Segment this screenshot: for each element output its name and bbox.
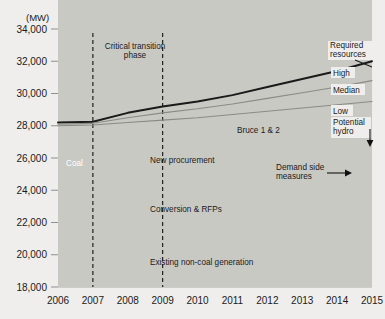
y-tick-label: 18,000 (16, 282, 47, 293)
ctp-line1: Critical transition (105, 42, 166, 51)
y-tick-label: 32,000 (16, 56, 47, 67)
label-low: Low (333, 107, 348, 116)
annotation-coal: Coal (66, 159, 83, 168)
annotation-existing-non-coal: Existing non-coal generation (150, 258, 254, 267)
x-tick-label: 2012 (256, 295, 279, 306)
x-tick-label: 2010 (186, 295, 209, 306)
y-tick-label: 26,000 (16, 153, 47, 164)
x-tick-label: 2008 (117, 295, 140, 306)
req-line1: Required (330, 41, 364, 50)
y-tick-label: 20,000 (16, 249, 47, 260)
x-tick-label: 2006 (47, 295, 70, 306)
annotation-high: High (331, 67, 355, 78)
annotation-median: Median (331, 84, 365, 95)
x-tick-label: 2007 (82, 295, 105, 306)
dsm-line1: Demand side (276, 163, 325, 172)
hydro-line2: hydro (333, 127, 354, 136)
x-tick-label: 2011 (222, 295, 244, 306)
y-tick-label: 24,000 (16, 185, 47, 196)
y-tick-label: 28,000 (16, 120, 47, 131)
y-axis-unit-label: (MW) (26, 12, 49, 23)
x-tick-label: 2015 (361, 295, 384, 306)
y-axis-tick-labels: 18,00020,00022,00024,00026,00028,00030,0… (16, 24, 47, 293)
y-tick-label: 30,000 (16, 88, 47, 99)
x-tick-label: 2009 (152, 295, 175, 306)
annotation-conversion-rfps: Conversion & RFPs (150, 205, 222, 214)
annotation-new-procurement: New procurement (150, 156, 215, 165)
dsm-line2: measures (276, 172, 312, 181)
y-tick-label: 22,000 (16, 217, 47, 228)
y-tick-label: 34,000 (16, 24, 47, 35)
annotation-low: Low (331, 105, 353, 116)
label-high: High (333, 69, 350, 78)
label-median: Median (333, 86, 360, 95)
x-tick-label: 2013 (291, 295, 314, 306)
hydro-line1: Potential (333, 118, 365, 127)
x-tick-label: 2014 (326, 295, 349, 306)
area-chart: 18,00020,00022,00024,00026,00028,00030,0… (0, 0, 385, 319)
ctp-line2: phase (124, 51, 147, 60)
annotation-bruce-1-2: Bruce 1 & 2 (237, 126, 280, 135)
req-line2: resources (330, 50, 366, 59)
chart-container: 18,00020,00022,00024,00026,00028,00030,0… (0, 0, 385, 319)
